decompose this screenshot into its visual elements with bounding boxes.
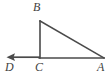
vertex-label-b: B bbox=[33, 1, 40, 13]
geometry-figure: B D C A bbox=[0, 0, 111, 76]
triangle-abc bbox=[39, 21, 104, 58]
vertex-label-a: A bbox=[97, 61, 104, 73]
segment-ba bbox=[40, 21, 104, 58]
figure-canvas bbox=[0, 0, 111, 76]
vertex-label-d: D bbox=[5, 61, 14, 73]
vertex-label-c: C bbox=[35, 61, 43, 73]
